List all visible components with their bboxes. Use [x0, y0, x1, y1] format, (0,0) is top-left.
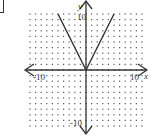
x-axis-label: x [144, 72, 148, 81]
graph [0, 0, 150, 137]
y-max-label: 10 [77, 13, 86, 22]
x-min-label: -10 [33, 73, 45, 82]
x-max-label: 10 [130, 73, 139, 82]
y-min-label: -10 [70, 119, 82, 128]
y-axis-label: y [78, 2, 82, 11]
